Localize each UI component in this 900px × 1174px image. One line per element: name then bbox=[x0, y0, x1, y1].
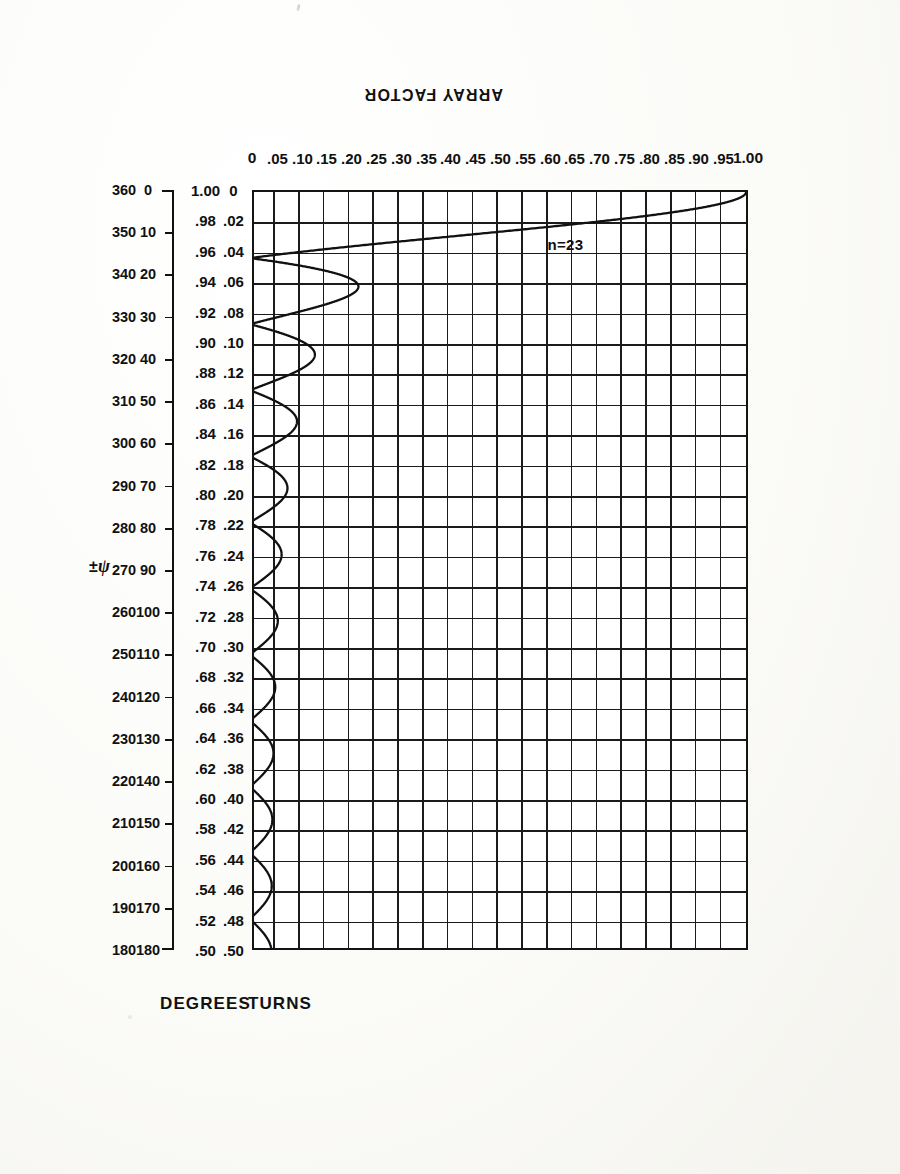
x-tick-degrees-lower: 220 bbox=[102, 773, 146, 789]
x-tick-degrees-lower: 350 bbox=[102, 224, 146, 240]
degrees-tick-mark bbox=[165, 570, 174, 572]
degrees-tick-mark bbox=[165, 528, 174, 530]
x-tick-degrees-lower: 280 bbox=[102, 520, 146, 536]
plot-area bbox=[252, 190, 748, 950]
curve-annotation-n: n=23 bbox=[548, 236, 584, 253]
x-tick-degrees-lower: 240 bbox=[102, 689, 146, 705]
array-factor-chart: n=23 0.05.10.15.20.25.30.35.40.45.50.55.… bbox=[130, 82, 770, 1092]
degrees-axis-endcap bbox=[162, 190, 174, 192]
x-axis-title-turns: TURNS bbox=[248, 994, 312, 1014]
degrees-tick-mark bbox=[165, 443, 174, 445]
x-tick-degrees-lower: 210 bbox=[102, 815, 146, 831]
x-tick-turns-lower: .94 bbox=[184, 273, 228, 290]
degrees-tick-mark bbox=[165, 781, 174, 783]
array-factor-curve bbox=[254, 192, 746, 948]
x-tick-degrees-lower: 200 bbox=[102, 858, 146, 874]
x-tick-degrees-lower: 360 bbox=[102, 182, 146, 198]
x-tick-degrees-lower: 180 bbox=[102, 942, 146, 958]
degrees-tick-mark bbox=[165, 908, 174, 910]
x-tick-degrees-lower: 230 bbox=[102, 731, 146, 747]
degrees-tick-mark bbox=[165, 654, 174, 656]
x-tick-degrees-lower: 330 bbox=[102, 309, 146, 325]
x-tick-turns-lower: .90 bbox=[184, 334, 228, 351]
x-tick-degrees-lower: 310 bbox=[102, 393, 146, 409]
x-tick-turns-lower: .96 bbox=[184, 242, 228, 259]
x-tick-turns-lower: .88 bbox=[184, 364, 228, 381]
degrees-tick-mark bbox=[165, 317, 174, 319]
x-tick-turns-lower: .78 bbox=[184, 516, 228, 533]
x-tick-turns-lower: 1.00 bbox=[184, 182, 228, 199]
x-tick-degrees-lower: 320 bbox=[102, 351, 146, 367]
x-tick-turns-lower: .52 bbox=[184, 911, 228, 928]
x-tick-turns-lower: .82 bbox=[184, 455, 228, 472]
x-tick-turns-lower: .50 bbox=[184, 942, 228, 959]
x-tick-degrees-lower: 290 bbox=[102, 478, 146, 494]
x-tick-turns-lower: .86 bbox=[184, 394, 228, 411]
degrees-tick-mark bbox=[165, 697, 174, 699]
psi-symbol-label: ±ψ bbox=[89, 556, 110, 577]
x-axis-title-degrees: DEGREES bbox=[160, 994, 251, 1014]
x-tick-degrees-lower: 190 bbox=[102, 900, 146, 916]
x-tick-turns-lower: .56 bbox=[184, 850, 228, 867]
x-tick-turns-lower: .72 bbox=[184, 607, 228, 624]
x-tick-turns-lower: .74 bbox=[184, 577, 228, 594]
degrees-tick-mark bbox=[165, 401, 174, 403]
degrees-tick-mark bbox=[165, 823, 174, 825]
degrees-tick-mark bbox=[165, 359, 174, 361]
degrees-tick-mark bbox=[165, 739, 174, 741]
x-tick-turns-lower: .54 bbox=[184, 881, 228, 898]
degrees-tick-mark bbox=[165, 866, 174, 868]
x-tick-turns-lower: .64 bbox=[184, 729, 228, 746]
x-tick-turns-lower: .58 bbox=[184, 820, 228, 837]
x-tick-turns-lower: .84 bbox=[184, 425, 228, 442]
x-tick-turns-lower: .68 bbox=[184, 668, 228, 685]
x-tick-degrees-lower: 260 bbox=[102, 604, 146, 620]
x-tick-turns-lower: .80 bbox=[184, 486, 228, 503]
degrees-tick-mark bbox=[165, 612, 174, 614]
x-tick-turns-lower: .76 bbox=[184, 546, 228, 563]
x-tick-degrees-lower: 340 bbox=[102, 266, 146, 282]
x-tick-degrees-lower: 300 bbox=[102, 435, 146, 451]
x-tick-turns-lower: .70 bbox=[184, 638, 228, 655]
degrees-tick-mark bbox=[165, 232, 174, 234]
curve-container bbox=[254, 192, 746, 948]
x-tick-turns-lower: .98 bbox=[184, 212, 228, 229]
degrees-tick-mark bbox=[165, 486, 174, 488]
x-tick-turns-lower: .62 bbox=[184, 759, 228, 776]
x-tick-turns-lower: .92 bbox=[184, 303, 228, 320]
degrees-tick-mark bbox=[165, 274, 174, 276]
degrees-axis-endcap bbox=[162, 948, 174, 950]
x-tick-turns-lower: .66 bbox=[184, 698, 228, 715]
x-tick-turns-lower: .60 bbox=[184, 790, 228, 807]
y-axis-tick-label: 1.00 bbox=[726, 149, 770, 167]
x-tick-degrees-lower: 250 bbox=[102, 646, 146, 662]
